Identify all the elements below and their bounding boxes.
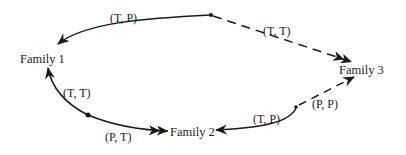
node-family2: Family 2 [170, 126, 215, 139]
split-point-top [209, 13, 213, 17]
split-point-right [294, 105, 298, 109]
family-transition-diagram: Family 1 Family 2 Family 3 (T, P) (T, T)… [0, 0, 406, 155]
edge-left-to-family2 [88, 115, 168, 131]
edge-label-right-family3: (P, P) [312, 98, 338, 110]
edge-top-to-family3 [213, 16, 352, 62]
edge-label-top-family3: (T, T) [263, 25, 291, 37]
node-family1: Family 1 [20, 53, 65, 66]
split-point-left [86, 113, 91, 118]
edge-label-top-family1: (T, P) [110, 12, 137, 24]
edge-label-left-family1: (T, T) [63, 87, 91, 99]
node-family3: Family 3 [339, 64, 384, 77]
edge-label-right-family2: (T, P) [253, 113, 280, 125]
edge-label-left-family2: (P, T) [105, 131, 131, 143]
